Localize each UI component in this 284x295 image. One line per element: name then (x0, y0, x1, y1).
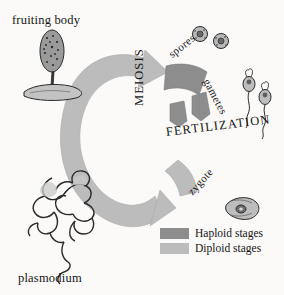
spore-cell-2 (214, 34, 229, 49)
label-fruiting-body: fruiting body (12, 14, 80, 27)
label-plasmodium: plasmodium (18, 272, 82, 285)
haploid-swatch (160, 228, 189, 239)
fruiting-body-drawing (24, 30, 82, 100)
diploid-swatch (160, 243, 189, 254)
label-meiosis: MEIOSIS (133, 48, 146, 106)
legend-label-diploid: Diploid stages (195, 243, 261, 255)
gamete-cell-2 (259, 82, 271, 139)
legend-item-diploid: Diploid stages (160, 242, 263, 255)
legend: Haploid stages Diploid stages (160, 227, 263, 257)
zygote-cell (226, 198, 259, 220)
legend-item-haploid: Haploid stages (160, 227, 263, 240)
plasmodium-drawing (28, 171, 94, 284)
life-cycle-diagram: fruiting body plasmodium MEIOSIS FERTILI… (0, 0, 284, 295)
legend-label-haploid: Haploid stages (195, 228, 263, 240)
